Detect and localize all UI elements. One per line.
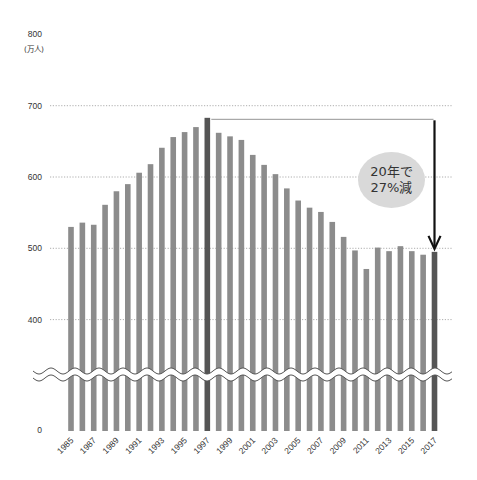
callout-text: 20年で — [370, 164, 413, 179]
bar-2007 — [318, 212, 324, 431]
y-tick-label: 800 — [28, 29, 42, 39]
bar-2002 — [261, 165, 267, 431]
bar-chart: (万人) 4005006007008000 198519871989199119… — [0, 0, 477, 480]
bar-1999 — [227, 136, 233, 431]
y-tick-label: 600 — [28, 172, 42, 182]
bar-2008 — [329, 222, 335, 431]
x-tick-label: 2003 — [259, 435, 280, 456]
y-tick-label: 400 — [28, 315, 42, 325]
x-tick-label: 2007 — [305, 435, 326, 456]
bar-1986 — [80, 223, 86, 431]
x-tick-label: 2013 — [373, 435, 394, 456]
x-tick-label: 1987 — [78, 435, 99, 456]
bar-1987 — [91, 225, 97, 431]
bar-1990 — [125, 184, 131, 431]
x-tick-label: 2011 — [351, 435, 371, 455]
x-tick-label: 2015 — [396, 435, 417, 456]
bar-1993 — [159, 148, 165, 431]
bar-1997 — [205, 118, 211, 431]
bar-2005 — [295, 201, 301, 431]
bar-1988 — [102, 205, 108, 431]
bar-2014 — [398, 246, 404, 431]
bar-1991 — [136, 173, 142, 431]
bar-1996 — [193, 127, 199, 431]
bar-2012 — [375, 248, 381, 431]
bar-1994 — [170, 137, 176, 431]
x-tick-label: 1989 — [100, 435, 121, 456]
bar-1989 — [114, 191, 120, 431]
x-tick-label: 2009 — [328, 435, 349, 456]
bar-2009 — [341, 237, 347, 431]
bar-2004 — [284, 188, 290, 431]
x-tick-label: 1995 — [169, 435, 190, 456]
x-tick-label: 2005 — [282, 435, 303, 456]
bar-1998 — [216, 133, 222, 431]
x-axis: 1985198719891991199319951997199920012003… — [55, 435, 439, 456]
y-tick-label: 500 — [28, 243, 42, 253]
bar-1992 — [148, 164, 154, 431]
x-tick-label: 1985 — [55, 435, 76, 456]
y-tick-label: 0 — [37, 425, 42, 435]
x-tick-label: 2001 — [237, 435, 258, 456]
bar-2011 — [364, 269, 370, 431]
callout-text: 27%減 — [371, 180, 413, 195]
bar-2001 — [250, 155, 256, 431]
x-tick-label: 1993 — [146, 435, 167, 456]
bar-2000 — [239, 140, 245, 431]
x-tick-label: 1997 — [191, 435, 212, 456]
annotations: 20年で27%減 — [211, 119, 440, 249]
bar-2006 — [307, 208, 313, 431]
bar-2003 — [273, 174, 279, 431]
x-tick-label: 1991 — [123, 435, 144, 456]
bar-2016 — [420, 255, 426, 431]
y-axis-unit-label: (万人) — [24, 45, 44, 54]
bar-2017 — [432, 252, 438, 431]
y-tick-label: 700 — [28, 101, 42, 111]
bar-2015 — [409, 251, 415, 431]
bar-1995 — [182, 132, 188, 431]
bar-2013 — [386, 251, 392, 431]
x-tick-label: 1999 — [214, 435, 235, 456]
bar-1985 — [68, 227, 74, 431]
bar-2010 — [352, 250, 358, 431]
x-tick-label: 2017 — [418, 435, 439, 456]
